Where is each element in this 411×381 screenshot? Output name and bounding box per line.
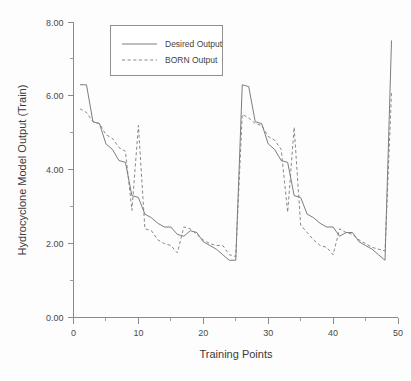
series-line-born-output [80, 92, 392, 256]
legend: Desired Output BORN Output [111, 26, 223, 76]
y-tick-label: 6.00 [46, 91, 64, 101]
y-axis-title: Hydrocyclone Model Output (Train) [16, 85, 28, 256]
y-tick-label: 4.00 [46, 165, 64, 175]
x-tick-label: 40 [328, 328, 338, 338]
x-axis-tick-labels: 01020304050 [71, 328, 403, 338]
y-tick-label: 2.00 [46, 239, 64, 249]
legend-box [111, 26, 223, 76]
x-axis-ticks [74, 318, 399, 324]
y-tick-label: 0.00 [46, 313, 64, 323]
x-tick-label: 10 [133, 328, 143, 338]
legend-label-desired-output: Desired Output [165, 39, 223, 49]
legend-label-born-output: BORN Output [165, 55, 218, 65]
chart-figure: 0.002.004.006.008.00 01020304050 Desired… [0, 0, 411, 381]
x-axis-group: 01020304050 [71, 318, 403, 338]
line-chart-canvas: 0.002.004.006.008.00 01020304050 Desired… [0, 0, 411, 381]
x-tick-label: 50 [393, 328, 403, 338]
x-tick-label: 0 [71, 328, 76, 338]
y-axis-tick-labels: 0.002.004.006.008.00 [46, 18, 64, 324]
x-axis-title: Training Points [200, 348, 273, 360]
x-tick-label: 20 [198, 328, 208, 338]
x-tick-label: 30 [263, 328, 273, 338]
y-axis-group: 0.002.004.006.008.00 [46, 18, 74, 324]
y-axis-ticks [68, 22, 74, 318]
y-tick-label: 8.00 [46, 18, 64, 28]
